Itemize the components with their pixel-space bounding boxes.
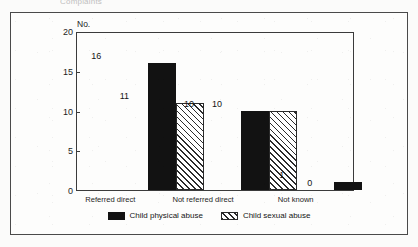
legend-label: Child physical abuse — [130, 211, 203, 220]
bar-2-1 — [176, 103, 204, 190]
y-axis-tick-mark — [76, 151, 80, 152]
legend-label: Child sexual abuse — [243, 211, 311, 220]
bar-value-label: 0 — [307, 178, 312, 188]
bar-value-label: 1 — [279, 170, 284, 180]
y-axis-tick-mark — [76, 72, 80, 73]
x-axis-category-label: Not referred direct — [172, 195, 233, 204]
legend-hatched-swatch-icon — [221, 212, 238, 220]
bar-value-label: 16 — [91, 51, 101, 61]
figure-frame: No. 05101520 Child physical abuseChild s… — [10, 12, 408, 235]
y-axis-tick-label: 20 — [49, 27, 73, 37]
bar-1-2 — [241, 111, 269, 191]
plot-area — [76, 32, 354, 191]
y-axis-tick-label: 15 — [49, 67, 73, 77]
bar-1-1 — [148, 63, 176, 190]
chart-legend: Child physical abuseChild sexual abuse — [11, 211, 407, 220]
legend-solid-swatch-icon — [108, 212, 125, 220]
y-axis-tick-label: 5 — [49, 146, 73, 156]
y-axis-tick-labels: 05101520 — [47, 32, 73, 191]
x-axis-category-label: Not known — [278, 195, 314, 204]
x-axis-category-label: Referred direct — [85, 195, 135, 204]
y-axis-tick-mark — [76, 112, 80, 113]
y-axis-unit-label: No. — [77, 19, 90, 29]
y-axis-tick-label: 10 — [49, 107, 73, 117]
legend-entry-2: Child sexual abuse — [221, 211, 311, 220]
cut-off-caption: Complaints — [60, 0, 102, 6]
bar-value-label: 11 — [120, 91, 129, 101]
bar-1-3 — [334, 182, 362, 190]
legend-entry-1: Child physical abuse — [108, 211, 203, 220]
bar-value-label: 10 — [212, 99, 222, 109]
bar-value-label: 10 — [184, 99, 194, 109]
y-axis-tick-label: 0 — [49, 186, 73, 196]
